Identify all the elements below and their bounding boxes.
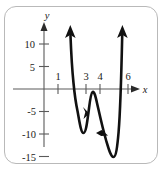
x-tick-label-3: 3	[83, 71, 88, 82]
y-axis-label: y	[44, 10, 50, 21]
graph-plot: 10 5 -5 -10 -15 1 3 4 6 x y	[5, 7, 157, 163]
y-tick-label-neg10: -10	[22, 129, 36, 140]
arrow-right-icon	[131, 86, 140, 93]
x-tick-label-6: 6	[125, 71, 130, 82]
figure-frame: 10 5 -5 -10 -15 1 3 4 6 x y	[4, 6, 158, 164]
x-tick-label-1: 1	[55, 71, 60, 82]
function-curve	[71, 36, 123, 157]
x-axis-label: x	[142, 84, 148, 95]
y-tick-label-10: 10	[25, 39, 36, 50]
y-tick-label-5: 5	[30, 62, 35, 73]
y-tick-label-neg5: -5	[27, 106, 36, 117]
y-tick-label-neg15: -15	[22, 152, 36, 163]
arrow-up-icon	[41, 22, 48, 31]
direction-arrow-icon-2	[96, 130, 108, 136]
x-tick-label-4: 4	[97, 71, 103, 82]
